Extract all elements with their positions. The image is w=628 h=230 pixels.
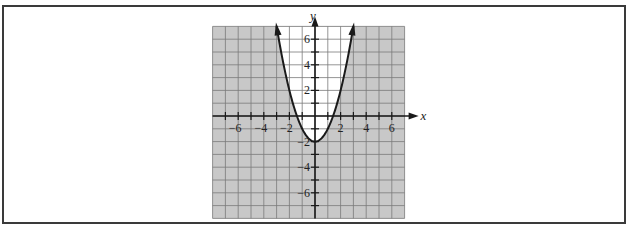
y-tick-label: 6	[304, 32, 310, 46]
y-tick-label: 2	[304, 83, 310, 97]
x-axis-arrow-icon	[409, 113, 419, 120]
x-tick-label: −2	[280, 121, 293, 135]
y-tick-label: 4	[304, 58, 310, 72]
x-tick-label: −4	[254, 121, 267, 135]
y-axis-label: y	[308, 8, 316, 23]
x-tick-label: 2	[338, 121, 344, 135]
parabola-chart: −6−4−2246642−2−4−6xy	[0, 0, 628, 230]
x-tick-label: 4	[363, 121, 369, 135]
x-tick-label: 6	[389, 121, 395, 135]
x-tick-label: −6	[229, 121, 242, 135]
x-axis-label: x	[420, 108, 427, 123]
y-tick-label: −6	[297, 186, 310, 200]
y-tick-label: −2	[297, 135, 310, 149]
y-tick-label: −4	[297, 160, 310, 174]
